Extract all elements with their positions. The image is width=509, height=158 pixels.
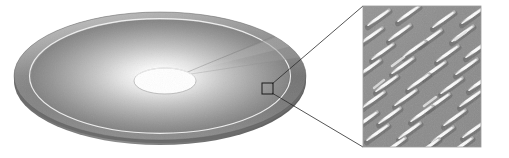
optical-disc-figure — [0, 0, 509, 158]
disc-group — [14, 12, 306, 145]
leader-line-bottom — [272, 93, 363, 147]
recorded-mark-pattern — [355, 6, 491, 157]
figure-container — [0, 0, 509, 158]
micrograph-inset — [355, 6, 491, 157]
